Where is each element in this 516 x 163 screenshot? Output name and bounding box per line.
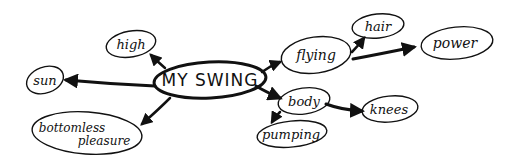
node-flying-label: flying bbox=[295, 47, 336, 63]
center-node[interactable]: MY SWING bbox=[153, 59, 267, 101]
node-pumping[interactable]: pumping bbox=[256, 117, 328, 150]
center-node-label: MY SWING bbox=[162, 70, 259, 90]
edge-center-flying bbox=[262, 62, 280, 72]
edge-flying-hair bbox=[352, 38, 364, 52]
node-bottomless-pleasure[interactable]: bottomless pleasure bbox=[31, 108, 144, 158]
edge-center-sun bbox=[66, 80, 155, 86]
edge-center-bottomless bbox=[142, 98, 170, 124]
node-flying[interactable]: flying bbox=[279, 32, 353, 77]
edge-center-high bbox=[151, 55, 165, 68]
node-hair[interactable]: hair bbox=[351, 11, 405, 40]
edge-flying-power bbox=[353, 47, 414, 59]
node-high[interactable]: high bbox=[104, 27, 158, 61]
node-power[interactable]: power bbox=[420, 23, 495, 62]
node-knees-label: knees bbox=[370, 102, 409, 117]
node-bottomless-label-line1: bottomless bbox=[39, 121, 105, 135]
node-body-label: body bbox=[288, 94, 320, 109]
node-sun-label: sun bbox=[33, 73, 56, 88]
node-high-label: high bbox=[116, 37, 145, 52]
node-knees[interactable]: knees bbox=[361, 93, 419, 125]
node-hair-label: hair bbox=[365, 19, 392, 34]
edge-body-knees bbox=[326, 104, 362, 111]
node-power-label: power bbox=[433, 35, 479, 51]
edge-body-pumping bbox=[272, 112, 280, 122]
node-bottomless-label-line2: pleasure bbox=[78, 134, 131, 148]
node-sun[interactable]: sun bbox=[23, 61, 68, 98]
node-pumping-label: pumping bbox=[262, 127, 320, 142]
node-body[interactable]: body bbox=[276, 85, 331, 118]
mind-map-canvas: MY SWING high sun bottomless pleasure fl… bbox=[0, 0, 516, 163]
